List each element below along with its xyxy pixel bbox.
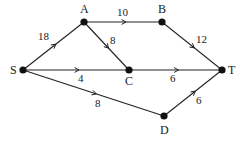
node-label-t: T (228, 63, 236, 77)
nodes-layer (19, 18, 225, 119)
edge-weight: 6 (170, 72, 176, 84)
edge-weight: 6 (196, 94, 202, 106)
edge-s-d: 8 (23, 70, 164, 116)
network-diagram: 18108124686 SABCTD (0, 0, 248, 142)
edge-a-b: 10 (84, 6, 162, 24)
edge-weight: 18 (38, 30, 50, 42)
node-label-s: S (10, 63, 17, 77)
node-a (80, 18, 87, 25)
node-t (218, 66, 225, 73)
node-label-a: A (80, 2, 89, 16)
edge-s-a: 18 (23, 22, 84, 70)
edge-weight: 10 (117, 6, 129, 18)
edges-layer: 18108124686 (23, 6, 222, 116)
edge-b-t: 12 (162, 22, 222, 70)
node-s (19, 66, 26, 73)
edge-weight: 12 (196, 33, 207, 45)
node-d (160, 112, 167, 119)
node-label-c: C (125, 74, 133, 88)
node-b (158, 18, 165, 25)
edge-s-c: 4 (23, 68, 129, 84)
node-c (125, 66, 132, 73)
edge-weight: 8 (95, 97, 101, 109)
network-graph: 18108124686 SABCTD (0, 0, 248, 142)
edge-weight: 4 (78, 72, 84, 84)
edge-a-c: 8 (84, 22, 129, 70)
node-label-d: D (160, 123, 169, 137)
node-label-b: B (158, 2, 166, 16)
edge-weight: 8 (110, 34, 116, 46)
